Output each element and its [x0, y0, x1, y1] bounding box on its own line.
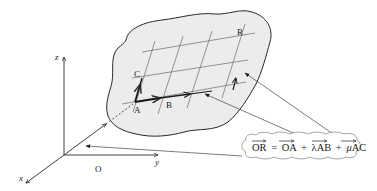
plane-surface: [107, 11, 271, 136]
plane-vector-diagram: OR = OA + λAB + μAC z y x O A B C R: [0, 0, 377, 191]
origin-label: O: [95, 164, 102, 174]
point-B-label: B: [166, 100, 172, 110]
formula-lhs: OR: [252, 142, 267, 153]
formula-term-AB: AB: [317, 142, 332, 153]
y-axis-label: y: [154, 157, 159, 167]
x-axis: [26, 155, 64, 183]
formula: OR = OA + λAB + μAC: [252, 141, 366, 153]
point-R-label: R: [237, 27, 243, 37]
point-A-label: A: [134, 105, 141, 115]
vector-OA: [64, 124, 106, 155]
z-axis-label: z: [54, 52, 59, 62]
point-C-label: C: [134, 69, 140, 79]
x-axis-label: x: [18, 173, 23, 183]
svg-text:OR = OA +: OR = OA + λAB + μAC: [252, 142, 366, 153]
formula-term-OA: OA: [282, 142, 298, 153]
formula-term-AC: AC: [352, 142, 367, 153]
